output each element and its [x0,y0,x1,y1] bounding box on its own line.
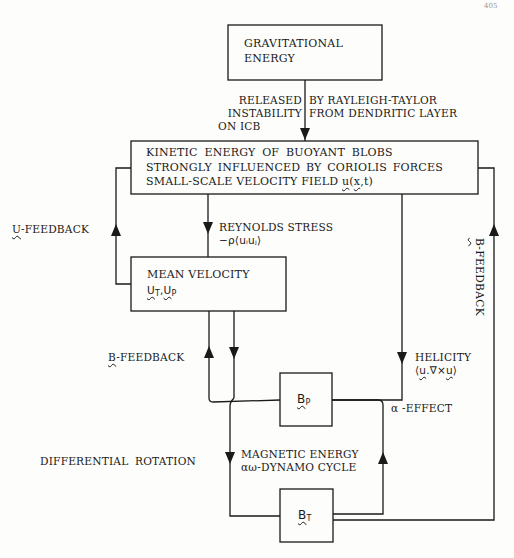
magnetic-energy-label: MAGNETIC ENERGY αω-DYNAMO CYCLE [241,448,359,474]
angle-close: ⟩ [453,364,457,376]
reynolds-line-1: REYNOLDS STRESS [219,221,333,234]
released-left-line-1: RELEASED [218,94,302,107]
gravitational-line-2: ENERGY [244,52,343,67]
kinetic-line-3: SMALL-SCALE VELOCITY FIELD u(x,t) [146,175,443,190]
released-left-line-3: ON ICB [218,120,261,133]
mean-velocity-box: MEAN VELOCITY UT,UP [147,268,250,301]
helicity-formula: ⟨u.∇×u⟩ [415,364,471,377]
b-symbol: B [108,351,116,363]
kinetic-line-3-rest: ,t) [360,175,373,188]
b-symbol-right: B [474,238,486,246]
bp-box: BP [297,393,310,409]
curl-operator: .∇× [426,364,446,376]
kinetic-line-1: KINETIC ENERGY OF BUOYANT BLOBS [146,146,443,161]
b-feedback-right-text: -FEEDBACK [474,246,486,316]
bt-box: BT [298,509,312,525]
up-subscript: P [171,289,176,298]
bp-subscript: P [305,398,310,407]
differential-rotation-label: DIFFERENTIAL ROTATION [40,455,196,468]
released-label-left: RELEASED INSTABILITY [218,94,302,120]
released-label-right: BY RAYLEIGH-TAYLOR FROM DENDRITIC LAYER [309,94,457,120]
u-symbol: U [12,223,21,235]
reynolds-stress-label: REYNOLDS STRESS −ρ⟨uᵢuⱼ⟩ [219,221,333,247]
kinetic-energy-box: KINETIC ENERGY OF BUOYANT BLOBS STRONGLY… [146,146,443,190]
helicity-line-1: HELICITY [415,351,471,364]
magnetic-line-2: αω-DYNAMO CYCLE [241,461,359,474]
alpha-effect-label: α -EFFECT [391,402,452,415]
mean-velocity-components: UT,UP [147,283,250,302]
magnetic-line-1: MAGNETIC ENERGY [241,448,359,461]
released-right-line-2: FROM DENDRITIC LAYER [309,107,457,120]
helicity-u2: u [446,364,453,376]
gravitational-energy-box: GRAVITATIONAL ENERGY [244,37,343,66]
b-feedback-left-text: -FEEDBACK [116,351,184,363]
mean-velocity-title: MEAN VELOCITY [147,268,250,283]
u-feedback-text: -FEEDBACK [21,223,89,235]
kinetic-line-3-prefix: SMALL-SCALE VELOCITY FIELD [146,175,342,188]
kinetic-line-2: STRONGLY INFLUENCED BY CORIOLIS FORCES [146,161,443,176]
b-feedback-right-label: B-FEEDBACK [474,238,486,316]
b-feedback-left-label: B-FEEDBACK [108,351,184,364]
bt-subscript: T [306,514,311,523]
released-left-line-2: INSTABILITY [218,107,302,120]
helicity-label: HELICITY ⟨u.∇×u⟩ [415,351,471,377]
gravitational-line-1: GRAVITATIONAL [244,37,343,52]
page-number: 405 [484,2,497,10]
released-right-line-1: BY RAYLEIGH-TAYLOR [309,94,457,107]
u-feedback-label: U-FEEDBACK [12,223,89,236]
ut-symbol: U [147,284,155,296]
dynamo-energy-flow-diagram: 405 GRAVITATIONAL ENERGY RELEASED INSTAB… [0,0,514,558]
connector-lines [0,0,514,558]
reynolds-formula: −ρ⟨uᵢuⱼ⟩ [219,234,333,247]
